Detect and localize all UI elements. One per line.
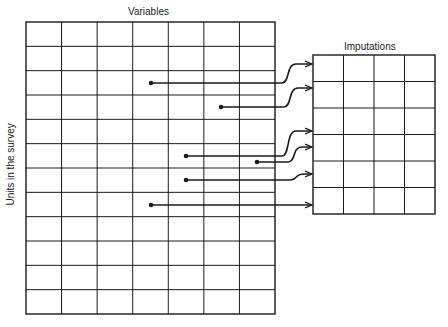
imputation-arrow <box>186 174 312 180</box>
imputation-arrow <box>151 64 312 83</box>
imputation-matrix-grid <box>313 55 435 214</box>
imputation-arrows <box>149 64 312 207</box>
imputation-diagram <box>0 0 448 327</box>
imputation-arrow <box>221 88 312 107</box>
data-matrix-grid <box>26 22 275 314</box>
